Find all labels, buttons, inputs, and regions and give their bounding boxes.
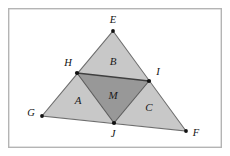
region-label-m: M [107,89,118,101]
diagram-canvas: A B C M E G F H I J [0,0,230,156]
vertex-label-g: G [27,107,35,118]
medial-triangle-figure: A B C M E G F H I J [0,0,230,156]
vertex-label-j: J [111,128,117,139]
vertex-dot-f[interactable] [184,129,188,133]
vertex-dot-e[interactable] [111,29,115,33]
vertex-dot-g[interactable] [40,114,44,118]
vertex-dot-j[interactable] [112,121,116,125]
vertex-label-h: H [63,57,73,68]
region-label-c: C [145,101,153,113]
vertex-dot-h[interactable] [75,71,79,75]
vertex-label-f: F [192,127,200,138]
region-label-b: B [110,55,117,67]
vertex-dot-i[interactable] [147,79,151,83]
region-label-a: A [74,94,82,106]
vertex-label-e: E [109,14,117,25]
regions-group [42,31,186,131]
vertex-label-i: I [155,66,160,77]
